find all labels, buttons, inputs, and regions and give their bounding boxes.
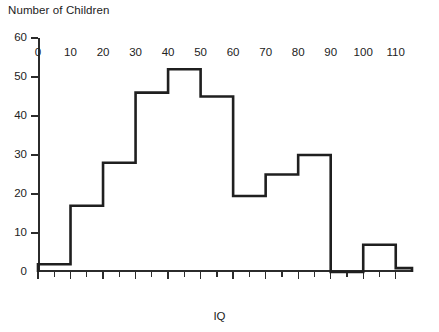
y-tick-label-60: 60 <box>5 32 27 44</box>
x-tick-60 <box>232 272 233 279</box>
x-tick-10 <box>70 272 71 279</box>
x-tick-0 <box>37 272 38 279</box>
x-tick-30 <box>135 272 136 279</box>
x-tick-minor-75 <box>281 272 282 277</box>
y-tick-60 <box>31 37 38 38</box>
x-tick-minor-55 <box>216 272 217 277</box>
histogram-figure: Number of Children 0102030405060 0102030… <box>0 0 439 332</box>
x-tick-70 <box>265 272 266 279</box>
histogram-outline <box>38 38 412 272</box>
x-tick-minor-105 <box>379 272 380 277</box>
x-tick-20 <box>102 272 103 279</box>
x-tick-110 <box>395 272 396 279</box>
x-tick-80 <box>298 272 299 279</box>
x-tick-50 <box>200 272 201 279</box>
y-tick-10 <box>31 232 38 233</box>
y-tick-label-10: 10 <box>5 227 27 239</box>
x-tick-minor-15 <box>86 272 87 277</box>
plot-area: 0102030405060 0102030405060708090100110 <box>38 38 412 272</box>
y-tick-label-30: 30 <box>5 149 27 161</box>
y-tick-30 <box>31 154 38 155</box>
y-tick-20 <box>31 193 38 194</box>
y-tick-40 <box>31 115 38 116</box>
x-tick-minor-5 <box>54 272 55 277</box>
y-tick-label-50: 50 <box>5 71 27 83</box>
x-tick-minor-45 <box>184 272 185 277</box>
y-axis-title: Number of Children <box>8 4 110 16</box>
x-tick-minor-85 <box>314 272 315 277</box>
x-tick-minor-35 <box>151 272 152 277</box>
x-axis-title: IQ <box>0 310 439 322</box>
y-tick-label-20: 20 <box>5 188 27 200</box>
y-tick-label-40: 40 <box>5 110 27 122</box>
x-tick-minor-65 <box>249 272 250 277</box>
x-tick-40 <box>167 272 168 279</box>
x-tick-minor-25 <box>119 272 120 277</box>
y-tick-50 <box>31 76 38 77</box>
y-tick-label-0: 0 <box>5 266 27 278</box>
histogram-step-path <box>38 69 412 272</box>
